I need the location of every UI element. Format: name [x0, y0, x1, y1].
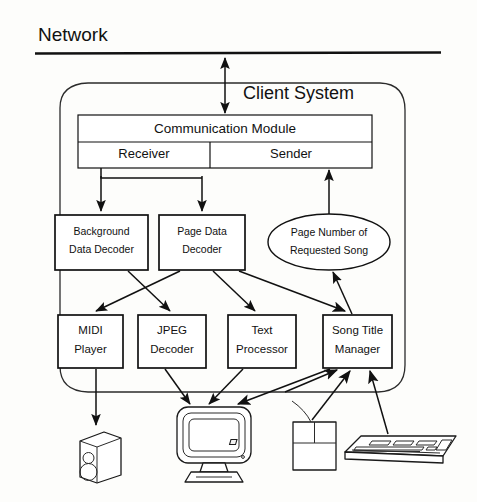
- song-title-manager-label-line1: Song Title: [332, 324, 383, 336]
- page-number-label-line1: Page Number of: [291, 226, 368, 238]
- receiver-label: Receiver: [118, 146, 170, 161]
- jpeg-to-monitor-arrow: [165, 369, 190, 404]
- jpeg-decoder-box: [138, 315, 206, 368]
- page-number-of-requested-song-ellipse: [268, 214, 390, 270]
- keyboard-icon: [230, 436, 456, 463]
- page-number-label-line2: Requested Song: [290, 244, 368, 256]
- midi-player-box: [58, 315, 123, 368]
- network-line: [35, 53, 441, 54]
- midi-player-label-line1: MIDI: [78, 324, 102, 336]
- receiver-bus: [101, 168, 202, 178]
- page-decoder-to-text-arrow: [213, 271, 255, 311]
- page-decoder-to-song-title-arrow: [239, 271, 345, 311]
- background-data-decoder-label-line1: Background: [73, 225, 129, 237]
- background-data-decoder-label-line2: Data Decoder: [69, 243, 134, 255]
- text-processor-label-line2: Processor: [236, 343, 288, 355]
- text-to-monitor-arrow: [209, 369, 243, 404]
- text-processor-box: [228, 315, 296, 368]
- song-title-manager-box: [323, 315, 392, 368]
- mouse-icon: [292, 401, 336, 470]
- page-data-decoder-label-line2: Decoder: [182, 243, 222, 255]
- client-system-label: Client System: [243, 83, 354, 103]
- keyboard-to-song-title-arrow: [370, 371, 388, 434]
- monitor-icon: [177, 407, 251, 482]
- client-system-architecture-diagram: Network Client System Communication Modu…: [0, 0, 477, 502]
- background-decoder-to-jpeg-arrow: [128, 271, 170, 311]
- song-title-manager-label-line2: Manager: [335, 343, 381, 355]
- jpeg-decoder-label-line1: JPEG: [157, 324, 187, 336]
- network-label: Network: [38, 24, 108, 45]
- jpeg-decoder-label-line2: Decoder: [150, 343, 194, 355]
- page-data-decoder-label-line1: Page Data: [177, 225, 227, 237]
- sender-label: Sender: [270, 146, 313, 161]
- text-processor-label-line1: Text: [251, 324, 273, 336]
- diagram-page: Network Client System Communication Modu…: [0, 0, 477, 502]
- communication-module-label: Communication Module: [154, 121, 296, 136]
- song-title-to-monitor-arrow: [238, 369, 330, 404]
- left-input-to-song-title-arrow: [285, 370, 337, 392]
- speaker-icon: [80, 432, 121, 483]
- midi-player-label-line2: Player: [74, 343, 107, 355]
- page-decoder-to-midi-arrow: [96, 271, 180, 311]
